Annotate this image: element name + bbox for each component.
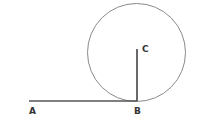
- label-point-a: A: [29, 106, 36, 116]
- label-point-b: B: [134, 106, 141, 116]
- geometry-diagram: A B C: [0, 0, 200, 122]
- label-point-c: C: [142, 44, 149, 54]
